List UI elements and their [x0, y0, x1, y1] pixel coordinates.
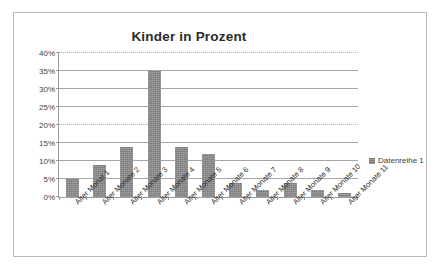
y-axis-tick-label: 0%	[43, 193, 55, 202]
y-axis-tick-label: 25%	[39, 103, 55, 112]
x-axis-labels: Alter Monat 1Alter Monate 2Alter Monate …	[58, 200, 358, 258]
x-axis-tick-label: Alter Monate 11	[346, 200, 352, 206]
x-axis-tick-label: Alter Monate 9	[291, 200, 297, 206]
x-axis-tick-label: Alter Monate 2	[100, 200, 106, 206]
y-axis-tick-label: 40%	[39, 49, 55, 58]
y-axis-tick-label: 30%	[39, 85, 55, 94]
x-axis-tick-label: Alter Monate 4	[155, 200, 161, 206]
x-axis-tick-label: Alter Monate 3	[128, 200, 134, 206]
x-axis-tick-label: Alter Monate 8	[264, 200, 270, 206]
chart-container: Kinder in Prozent 0%5%10%15%20%25%30%35%…	[13, 12, 427, 257]
x-axis-tick-label: Alter Monate 7	[237, 200, 243, 206]
y-axis-tick-label: 10%	[39, 157, 55, 166]
plot-wrapper: 0%5%10%15%20%25%30%35%40%	[46, 53, 358, 198]
y-axis-tick-label: 5%	[43, 175, 55, 184]
x-axis-tick-label: Alter Monate 10	[318, 200, 324, 206]
chart-legend: Datenreihe 1	[369, 156, 424, 165]
x-axis-tick-label: Alter Monate 5	[182, 200, 188, 206]
bar-slot	[59, 53, 86, 197]
y-axis-tick-label: 35%	[39, 67, 55, 76]
y-axis-tick-label: 15%	[39, 139, 55, 148]
x-axis-tick-label: Alter Monat 1	[73, 200, 79, 206]
legend-swatch-icon	[369, 158, 375, 164]
chart-title: Kinder in Prozent	[14, 29, 364, 44]
y-axis-tick-label: 20%	[39, 121, 55, 130]
legend-entry-label: Datenreihe 1	[378, 156, 424, 165]
x-axis-tick-label: Alter Monate 6	[209, 200, 215, 206]
